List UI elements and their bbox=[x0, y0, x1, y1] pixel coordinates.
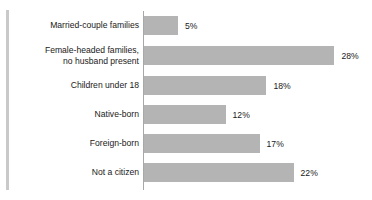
bar-row: Native-born12% bbox=[0, 100, 372, 129]
bar-and-value: 18% bbox=[144, 76, 291, 95]
bar bbox=[144, 16, 178, 35]
category-label: Married-couple families bbox=[0, 20, 139, 31]
category-label: Not a citizen bbox=[0, 167, 139, 178]
value-label: 5% bbox=[185, 21, 197, 31]
category-label: Children under 18 bbox=[0, 80, 139, 91]
bar-and-value: 28% bbox=[144, 46, 359, 65]
category-label: Foreign-born bbox=[0, 138, 139, 149]
bar-and-value: 12% bbox=[144, 105, 250, 124]
plot-area: Married-couple families5%Female-headed f… bbox=[0, 0, 372, 200]
bar-row: Female-headed families, no husband prese… bbox=[0, 40, 372, 71]
category-label: Native-born bbox=[0, 109, 139, 120]
value-label: 28% bbox=[341, 51, 358, 61]
bar-and-value: 5% bbox=[144, 16, 197, 35]
bar-row: Married-couple families5% bbox=[0, 11, 372, 40]
bar bbox=[144, 76, 266, 95]
value-label: 18% bbox=[273, 81, 290, 91]
bar bbox=[144, 105, 226, 124]
value-label: 22% bbox=[301, 168, 318, 178]
bar bbox=[144, 46, 334, 65]
bar bbox=[144, 134, 260, 153]
bar-row: Children under 1818% bbox=[0, 71, 372, 100]
bar-row: Not a citizen22% bbox=[0, 158, 372, 187]
bar bbox=[144, 163, 294, 182]
value-label: 17% bbox=[267, 139, 284, 149]
bar-and-value: 17% bbox=[144, 134, 284, 153]
category-label: Female-headed families, no husband prese… bbox=[0, 45, 139, 66]
bar-chart: Married-couple families5%Female-headed f… bbox=[0, 0, 372, 200]
bar-rows: Married-couple families5%Female-headed f… bbox=[0, 11, 372, 187]
value-label: 12% bbox=[233, 110, 250, 120]
bar-and-value: 22% bbox=[144, 163, 318, 182]
bar-row: Foreign-born17% bbox=[0, 129, 372, 158]
